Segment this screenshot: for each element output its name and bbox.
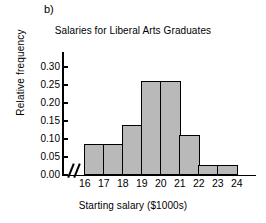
histogram-bar	[122, 125, 143, 175]
histogram-bar	[141, 81, 162, 175]
histogram-bar	[103, 144, 124, 175]
chart-title: Salaries for Liberal Arts Graduates	[0, 25, 266, 37]
x-tick-label: 19	[132, 177, 151, 189]
y-tick-mark	[62, 120, 68, 121]
y-tick-label: 0.20	[26, 98, 60, 108]
x-tick-label: 23	[208, 177, 227, 189]
y-tick-label: 0.00	[26, 170, 60, 180]
y-tick-mark	[62, 156, 68, 157]
histogram-bar	[84, 144, 105, 175]
y-tick-label: 0.15	[26, 116, 60, 126]
panel-label: b)	[44, 3, 54, 15]
x-tick-label: 22	[189, 177, 208, 189]
x-tick-label: 18	[113, 177, 132, 189]
y-tick-label: 0.30	[26, 62, 60, 72]
x-tick-label: 20	[151, 177, 170, 189]
y-tick-label: 0.25	[26, 80, 60, 90]
x-tick-label: 24	[227, 177, 246, 189]
y-tick-mark	[62, 84, 68, 85]
y-tick-label: 0.10	[26, 134, 60, 144]
y-tick-mark	[62, 138, 68, 139]
x-axis-label: Starting salary ($1000s)	[0, 200, 266, 212]
axis-break-icon	[66, 163, 84, 178]
y-tick-mark	[62, 66, 68, 67]
histogram-bar	[160, 81, 181, 175]
histogram-bar	[217, 165, 238, 175]
histogram-figure: b) Salaries for Liberal Arts Graduates R…	[0, 0, 266, 223]
x-tick-label: 17	[94, 177, 113, 189]
y-tick-label: 0.05	[26, 152, 60, 162]
x-tick-label: 16	[75, 177, 94, 189]
x-tick-label: 21	[170, 177, 189, 189]
histogram-bar	[179, 135, 200, 175]
y-tick-mark	[62, 102, 68, 103]
y-axis-label: Relative frequency	[15, 13, 26, 133]
histogram-bar	[198, 165, 219, 175]
